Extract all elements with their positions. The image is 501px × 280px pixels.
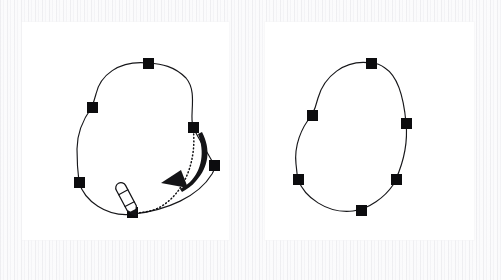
node-upper-left[interactable] [87,102,98,113]
node-lower-right[interactable] [391,174,402,185]
node-top[interactable] [143,58,154,69]
anchor-node-group-right[interactable] [293,58,412,216]
node-right[interactable] [209,160,220,171]
node-mid-right[interactable] [188,122,199,133]
figure-canvas [0,0,501,280]
panel-right-after [265,22,474,240]
drag-direction-arrow [161,132,208,192]
node-lower-left[interactable] [293,174,304,185]
bezier-outline-after[interactable] [296,62,407,211]
node-bottom[interactable] [356,205,367,216]
arrow-head [161,170,188,188]
node-upper-left[interactable] [307,110,318,121]
panel-left-before [22,22,229,240]
node-lower-left[interactable] [74,177,85,188]
node-right[interactable] [401,118,412,129]
node-top[interactable] [366,58,377,69]
drag-dotted-trail [133,127,194,213]
vector-editor-canvas-left[interactable] [22,22,229,240]
vector-editor-canvas-right[interactable] [265,22,474,240]
